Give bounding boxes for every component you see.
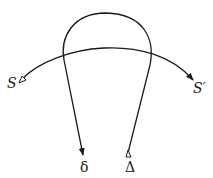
label-s-prime: S′ [193,81,206,95]
label-small-delta: δ [80,160,88,174]
label-capital-delta: Δ [125,160,135,174]
label-s: S [7,76,17,90]
tail-triangle-icon [19,76,26,83]
loop-delta-path [63,13,151,155]
tail-triangle-icon-2 [126,150,131,157]
arc-s-to-s-prime [22,48,193,80]
diagram-canvas [0,0,213,178]
